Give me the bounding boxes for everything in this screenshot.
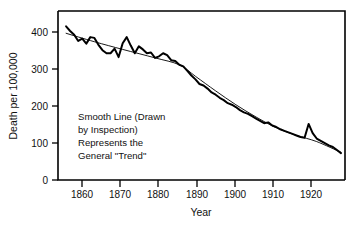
y-tick-label-100: 100: [31, 138, 48, 149]
x-tick-label-1910: 1910: [262, 189, 285, 200]
annotation-line-2: by Inspection): [78, 124, 138, 135]
annotation-line-4: General "Trend": [78, 150, 146, 161]
line-chart: 400 300 200 100 0 1860 1870 1880 1890 19…: [0, 0, 362, 227]
chart-figure: 400 300 200 100 0 1860 1870 1880 1890 19…: [0, 0, 362, 227]
annotation-line-3: Represents the: [78, 137, 143, 148]
y-tick-label-400: 400: [31, 27, 48, 38]
annotation-line-1: Smooth Line (Drawn: [78, 111, 165, 122]
x-tick-label-1880: 1880: [147, 189, 170, 200]
y-tick-label-200: 200: [31, 101, 48, 112]
x-tick-label-1860: 1860: [71, 189, 94, 200]
x-axis-title: Year: [190, 206, 212, 218]
x-tick-label-1900: 1900: [224, 189, 247, 200]
x-tick-label-1890: 1890: [186, 189, 209, 200]
x-tick-label-1870: 1870: [109, 189, 132, 200]
y-tick-label-0: 0: [42, 175, 48, 186]
y-tick-label-300: 300: [31, 64, 48, 75]
y-axis-title: Death per 100,000: [7, 52, 19, 139]
x-tick-label-1920: 1920: [300, 189, 323, 200]
